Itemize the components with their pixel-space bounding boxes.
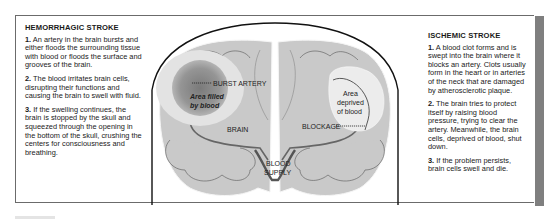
ischemic-step-3: 3. If the problem persists, brain cells …	[428, 157, 528, 174]
label-of-blood: of blood	[337, 108, 362, 115]
label-supply: SUPPLY	[264, 169, 291, 176]
step-text: If the problem persists, brain cells swe…	[428, 156, 511, 174]
step-text: The brain tries to protect itself by rai…	[428, 99, 522, 151]
label-area-filled: Area filled	[189, 93, 225, 100]
hemorrhagic-stroke-column: HEMORRHAGIC STROKE 1. An artery in the b…	[25, 24, 143, 162]
hemorrhagic-step-2: 2. The blood irritates brain cells, disr…	[25, 75, 143, 101]
ischemic-step-2: 2. The brain tries to protect itself by …	[428, 100, 528, 152]
hemorrhagic-step-3: 3. If the swelling continues, the brain …	[25, 106, 143, 158]
ischemic-title: ISCHEMIC STROKE	[428, 32, 528, 41]
label-by-blood: by blood	[190, 102, 220, 110]
hemorrhagic-title: HEMORRHAGIC STROKE	[25, 24, 143, 33]
step-text: An artery in the brain bursts and either…	[25, 35, 142, 70]
label-blood: BLOOD	[266, 160, 291, 167]
label-brain: BRAIN	[227, 126, 248, 133]
step-text: A blood clot forms and is swept into the…	[428, 43, 526, 95]
ischemic-step-1: 1. A blood clot forms and is swept into …	[428, 44, 528, 96]
ischemic-stroke-column: ISCHEMIC STROKE 1. A blood clot forms an…	[428, 32, 528, 179]
faint-caption-text	[15, 216, 55, 219]
hemorrhagic-step-1: 1. An artery in the brain bursts and eit…	[25, 36, 143, 70]
label-burst-artery: BURST ARTERY	[213, 80, 267, 87]
brain-cross-section-diagram: BURST ARTERY Area filled by blood BRAIN …	[150, 20, 400, 205]
label-area: Area	[343, 90, 358, 97]
step-text: If the swelling continues, the brain is …	[25, 105, 142, 157]
page-edge-shadow	[535, 16, 544, 206]
label-deprived: deprived	[337, 99, 364, 107]
label-blockage: BLOCKAGE	[302, 123, 341, 130]
step-text: The blood irritates brain cells, disrupt…	[25, 74, 141, 100]
